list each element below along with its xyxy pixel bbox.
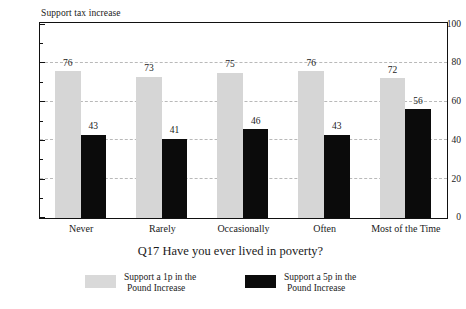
- y-tick-label: 60: [428, 96, 461, 106]
- x-axis-title: Q17 Have you ever lived in poverty?: [0, 244, 461, 259]
- legend-label-1p-line2: Pound Increase: [124, 283, 196, 294]
- bar-series-1p: [55, 71, 81, 218]
- x-category-label: Most of the Time: [346, 223, 466, 235]
- bar-value-label: 75: [217, 59, 243, 69]
- legend-swatch-1p: [85, 275, 116, 288]
- bar-series-5p: [324, 135, 350, 218]
- bar-value-label: 76: [298, 58, 324, 68]
- bar-series-1p: [217, 73, 243, 218]
- bar-series-5p: [162, 139, 188, 218]
- bar-value-label: 73: [136, 63, 162, 73]
- y-tick-minor: [39, 121, 43, 122]
- y-tick: [39, 62, 45, 63]
- bar-value-label: 43: [324, 121, 350, 131]
- bar-series-1p: [136, 77, 162, 218]
- y-tick: [39, 101, 45, 102]
- y-tick-label: 0: [428, 212, 461, 222]
- legend-label-1p-line1: Support a 1p in the: [124, 272, 196, 282]
- plot-area: 76437341754676437256: [39, 22, 448, 219]
- y-tick-label: 40: [428, 135, 461, 145]
- y-tick: [39, 140, 45, 141]
- y-tick: [39, 179, 45, 180]
- bar-value-label: 76: [55, 58, 81, 68]
- legend-swatch-5p: [245, 275, 276, 288]
- y-tick-label: 80: [428, 57, 461, 67]
- bar-series-5p: [243, 129, 269, 218]
- y-tick-minor: [39, 43, 43, 44]
- y-tick: [39, 217, 45, 218]
- bar-value-label: 72: [380, 65, 406, 75]
- legend-label-1p: Support a 1p in the Pound Increase: [124, 272, 196, 294]
- legend-label-5p-line2: Pound Increase: [284, 283, 356, 294]
- bar-value-label: 46: [243, 116, 269, 126]
- bar-value-label: 43: [81, 121, 107, 131]
- bar-series-1p: [380, 78, 406, 218]
- legend-label-5p: Support a 5p in the Pound Increase: [284, 272, 356, 294]
- y-tick-label: 100: [428, 19, 461, 29]
- bar-value-label: 56: [405, 96, 431, 106]
- y-tick-label: 20: [428, 174, 461, 184]
- y-tick-minor: [39, 159, 43, 160]
- y-tick-minor: [39, 198, 43, 199]
- chart-legend: Support a 1p in the Pound Increase Suppo…: [0, 272, 461, 302]
- y-tick-minor: [39, 82, 43, 83]
- plot-inner: 76437341754676437256: [40, 23, 447, 218]
- gridline: [40, 62, 447, 63]
- bar-series-5p: [405, 109, 431, 218]
- legend-label-5p-line1: Support a 5p in the: [284, 272, 356, 282]
- y-tick: [39, 24, 45, 25]
- bar-series-1p: [298, 71, 324, 218]
- bar-value-label: 41: [162, 125, 188, 135]
- bar-series-5p: [81, 135, 107, 218]
- y-axis-label: Support tax increase: [41, 8, 121, 19]
